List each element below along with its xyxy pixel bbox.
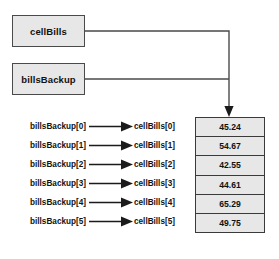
target-element-label: cellBills[1] bbox=[134, 136, 192, 155]
array-cell: 65.29 bbox=[196, 195, 264, 214]
source-element-label: billsBackup[2] bbox=[8, 155, 86, 174]
cellbills-reference-label: cellBills bbox=[30, 26, 67, 37]
source-element-label: billsBackup[4] bbox=[8, 193, 86, 212]
source-element-label: billsBackup[0] bbox=[8, 117, 86, 136]
cellbills-connector-line bbox=[85, 31, 229, 110]
billsbackup-reference-box[interactable]: billsBackup bbox=[12, 63, 85, 95]
arrow-down-icon bbox=[224, 106, 233, 117]
source-element-label: billsBackup[5] bbox=[8, 212, 86, 231]
array-cell-value: 54.67 bbox=[219, 141, 241, 151]
arrow-right-icon bbox=[89, 212, 133, 231]
arrow-right-icon bbox=[89, 193, 133, 212]
arrow-right-icon bbox=[89, 174, 133, 193]
array-cell-value: 49.75 bbox=[219, 218, 241, 228]
billsbackup-reference-label: billsBackup bbox=[21, 74, 75, 85]
array-cell: 42.55 bbox=[196, 156, 264, 175]
array-reference-diagram: cellBills billsBackup billsBackup[0] cel… bbox=[0, 0, 279, 259]
array-cell-value: 45.24 bbox=[219, 122, 241, 132]
array-cell: 45.24 bbox=[196, 118, 264, 137]
array-cell-value: 65.29 bbox=[219, 199, 241, 209]
cellbills-reference-box[interactable]: cellBills bbox=[12, 15, 85, 47]
arrow-right-icon bbox=[89, 155, 133, 174]
array-cell-value: 44.61 bbox=[219, 180, 241, 190]
target-element-label: cellBills[0] bbox=[134, 117, 192, 136]
target-element-label: cellBills[4] bbox=[134, 193, 192, 212]
array-cell: 44.61 bbox=[196, 176, 264, 195]
array-cell-value: 42.55 bbox=[219, 160, 241, 170]
arrow-right-icon bbox=[89, 117, 133, 136]
arrow-right-icon bbox=[89, 136, 133, 155]
array-value-table: 45.24 54.67 42.55 44.61 65.29 49.75 bbox=[195, 117, 265, 233]
target-element-label: cellBills[2] bbox=[134, 155, 192, 174]
source-element-label: billsBackup[1] bbox=[8, 136, 86, 155]
array-cell: 49.75 bbox=[196, 214, 264, 232]
array-cell: 54.67 bbox=[196, 137, 264, 156]
target-element-label: cellBills[5] bbox=[134, 212, 192, 231]
source-element-label: billsBackup[3] bbox=[8, 174, 86, 193]
target-element-label: cellBills[3] bbox=[134, 174, 192, 193]
